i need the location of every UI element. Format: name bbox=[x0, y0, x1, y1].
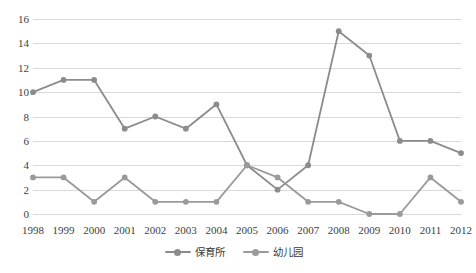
data-point-保育所-2000 bbox=[91, 77, 97, 83]
data-point-幼儿园-2010 bbox=[397, 211, 403, 217]
x-tick-label-2001: 2001 bbox=[108, 224, 142, 237]
x-tick-label-2005: 2005 bbox=[230, 224, 264, 237]
data-point-幼儿园-2003 bbox=[183, 199, 189, 205]
series-layer bbox=[33, 19, 461, 214]
data-point-幼儿园-2007 bbox=[305, 199, 311, 205]
legend-label: 保育所 bbox=[195, 246, 225, 258]
x-tick-label-2012: 2012 bbox=[444, 224, 476, 237]
data-point-保育所-1999 bbox=[61, 77, 67, 83]
data-point-幼儿园-1999 bbox=[61, 175, 67, 181]
series-幼儿园 bbox=[30, 162, 464, 217]
data-point-幼儿园-1998 bbox=[30, 175, 36, 181]
legend-marker-icon bbox=[165, 247, 191, 257]
x-tick-label-1999: 1999 bbox=[47, 224, 81, 237]
y-tick-label-4: 4 bbox=[5, 160, 29, 171]
chart-legend: 保育所幼儿园 bbox=[0, 246, 467, 258]
data-point-幼儿园-2009 bbox=[366, 211, 372, 217]
x-tick-label-2011: 2011 bbox=[413, 224, 447, 237]
x-tick-label-2009: 2009 bbox=[352, 224, 386, 237]
data-point-幼儿园-2002 bbox=[152, 199, 158, 205]
x-tick-label-2010: 2010 bbox=[383, 224, 417, 237]
legend-item-保育所[interactable]: 保育所 bbox=[165, 246, 225, 258]
data-point-幼儿园-2001 bbox=[122, 175, 128, 181]
legend-marker-icon bbox=[243, 247, 269, 257]
data-point-幼儿园-2006 bbox=[275, 175, 281, 181]
y-tick-label-0: 0 bbox=[5, 209, 29, 220]
y-tick-label-2: 2 bbox=[5, 185, 29, 196]
y-tick-label-6: 6 bbox=[5, 136, 29, 147]
data-point-幼儿园-2004 bbox=[214, 199, 220, 205]
x-tick-label-2000: 2000 bbox=[77, 224, 111, 237]
data-point-保育所-2007 bbox=[305, 162, 311, 168]
data-point-保育所-2012 bbox=[458, 150, 464, 156]
data-point-保育所-2002 bbox=[152, 114, 158, 120]
y-tick-label-8: 8 bbox=[5, 112, 29, 123]
data-point-保育所-2003 bbox=[183, 126, 189, 132]
x-tick-label-1998: 1998 bbox=[16, 224, 50, 237]
data-point-保育所-2006 bbox=[275, 187, 281, 193]
data-point-保育所-2009 bbox=[366, 53, 372, 59]
x-tick-label-2007: 2007 bbox=[291, 224, 325, 237]
y-tick-label-10: 10 bbox=[5, 87, 29, 98]
x-axis-tick-labels: 1998199920002001200220032004200520062007… bbox=[33, 224, 461, 240]
data-point-保育所-2011 bbox=[428, 138, 434, 144]
data-point-保育所-2008 bbox=[336, 28, 342, 34]
data-point-幼儿园-2005 bbox=[244, 162, 250, 168]
x-tick-label-2002: 2002 bbox=[138, 224, 172, 237]
x-tick-label-2004: 2004 bbox=[199, 224, 233, 237]
x-tick-label-2003: 2003 bbox=[169, 224, 203, 237]
data-point-保育所-2004 bbox=[214, 101, 220, 107]
legend-label: 幼儿园 bbox=[273, 246, 303, 258]
y-tick-label-12: 12 bbox=[5, 63, 29, 74]
series-line-幼儿园 bbox=[33, 165, 461, 214]
x-tick-label-2006: 2006 bbox=[261, 224, 295, 237]
y-tick-label-14: 14 bbox=[5, 38, 29, 49]
data-point-幼儿园-2012 bbox=[458, 199, 464, 205]
data-point-幼儿园-2011 bbox=[428, 175, 434, 181]
plot-area bbox=[33, 19, 461, 214]
y-tick-label-16: 16 bbox=[5, 14, 29, 25]
data-point-保育所-2001 bbox=[122, 126, 128, 132]
data-point-保育所-2010 bbox=[397, 138, 403, 144]
x-tick-label-2008: 2008 bbox=[322, 224, 356, 237]
data-point-幼儿园-2008 bbox=[336, 199, 342, 205]
data-point-保育所-1998 bbox=[30, 89, 36, 95]
legend-item-幼儿园[interactable]: 幼儿园 bbox=[243, 246, 303, 258]
data-point-幼儿园-2000 bbox=[91, 199, 97, 205]
